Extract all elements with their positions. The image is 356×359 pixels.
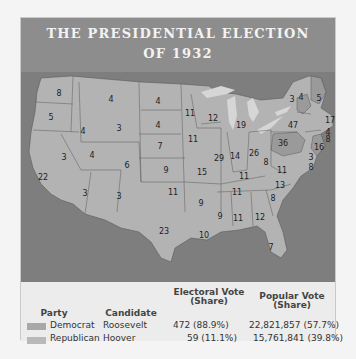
popular-democrat: 22,821,857 (57.7%) bbox=[249, 320, 339, 330]
state-label-va: 11 bbox=[277, 166, 287, 175]
state-label-wa: 8 bbox=[56, 89, 61, 98]
electoral-republican: 59 (11.1%) bbox=[187, 333, 237, 343]
map-title-line2: OF 1932 bbox=[21, 44, 335, 64]
state-label-mi: 19 bbox=[236, 121, 246, 130]
us-map-graphic bbox=[21, 72, 335, 282]
map-title: THE PRESIDENTIAL ELECTION OF 1932 bbox=[21, 18, 335, 72]
electoral-democrat: 472 (88.9%) bbox=[173, 320, 229, 330]
party-democrat: Democrat bbox=[50, 320, 94, 330]
us-landmass bbox=[29, 76, 333, 262]
state-label-ct: 8 bbox=[325, 135, 330, 144]
republican-swatch bbox=[27, 337, 46, 344]
state-label-de: 3 bbox=[308, 153, 313, 162]
us-map: 8522344343634479112311111591012291914261… bbox=[21, 72, 335, 282]
state-label-nj: 16 bbox=[314, 143, 324, 152]
state-label-az: 3 bbox=[82, 189, 87, 198]
candidate-hoover: Hoover bbox=[103, 333, 135, 343]
state-label-sc: 8 bbox=[270, 194, 275, 203]
state-label-mt: 4 bbox=[108, 95, 113, 104]
state-label-nc: 13 bbox=[275, 181, 285, 190]
state-label-nv: 3 bbox=[61, 153, 66, 162]
popular-republican: 15,761,841 (39.8%) bbox=[253, 333, 343, 343]
state-label-nh: 4 bbox=[298, 93, 303, 102]
state-label-al: 11 bbox=[233, 214, 243, 223]
state-label-ar: 9 bbox=[198, 199, 203, 208]
state-label-wy: 3 bbox=[116, 124, 121, 133]
header-electoral-vote: Electoral Vote (Share) bbox=[169, 288, 249, 306]
state-label-tn: 11 bbox=[232, 188, 242, 197]
state-label-ia: 11 bbox=[188, 135, 198, 144]
header-candidate: Candidate bbox=[101, 309, 161, 318]
state-label-la: 10 bbox=[199, 231, 209, 240]
state-label-me: 5 bbox=[316, 94, 321, 103]
state-label-vt: 3 bbox=[289, 95, 294, 104]
state-label-co: 6 bbox=[124, 161, 129, 170]
state-label-wv: 8 bbox=[263, 158, 268, 167]
state-label-md: 8 bbox=[308, 163, 313, 172]
header-popular-vote: Popular Vote (Share) bbox=[251, 292, 333, 310]
state-label-sd: 4 bbox=[155, 121, 160, 130]
state-label-or: 5 bbox=[48, 113, 53, 122]
state-label-oh: 26 bbox=[249, 149, 259, 158]
party-republican: Republican bbox=[50, 333, 100, 343]
state-label-mo: 15 bbox=[197, 168, 207, 177]
state-label-tx: 23 bbox=[159, 227, 169, 236]
candidate-roosevelt: Roosevelt bbox=[103, 320, 147, 330]
state-label-ny: 47 bbox=[288, 121, 298, 130]
election-map-panel: THE PRESIDENTIAL ELECTION OF 1932 852234… bbox=[20, 17, 336, 340]
state-label-pa: 36 bbox=[278, 139, 288, 148]
state-label-ca: 22 bbox=[38, 173, 48, 182]
header-electoral-line2: (Share) bbox=[169, 297, 249, 306]
state-label-in: 14 bbox=[230, 152, 240, 161]
state-label-ok: 11 bbox=[168, 188, 178, 197]
state-label-ky: 11 bbox=[239, 172, 249, 181]
state-label-ks: 9 bbox=[163, 166, 168, 175]
state-label-ut: 4 bbox=[89, 151, 94, 160]
state-label-nm: 3 bbox=[116, 192, 121, 201]
state-label-mn: 11 bbox=[185, 109, 195, 118]
democrat-swatch bbox=[27, 323, 46, 330]
header-party: Party bbox=[31, 309, 77, 318]
state-label-ne: 7 bbox=[157, 142, 162, 151]
state-label-wi: 12 bbox=[208, 114, 218, 123]
state-label-ga: 12 bbox=[255, 213, 265, 222]
state-label-ma: 17 bbox=[325, 116, 335, 125]
state-label-fl: 7 bbox=[268, 243, 273, 252]
results-legend: Party Candidate Electoral Vote (Share) P… bbox=[21, 282, 335, 341]
state-label-ms: 9 bbox=[217, 212, 222, 221]
header-popular-line2: (Share) bbox=[251, 301, 333, 310]
state-label-id: 4 bbox=[80, 127, 85, 136]
map-title-line1: THE PRESIDENTIAL ELECTION bbox=[21, 24, 335, 44]
state-label-nd: 4 bbox=[155, 97, 160, 106]
state-label-il: 29 bbox=[214, 154, 224, 163]
